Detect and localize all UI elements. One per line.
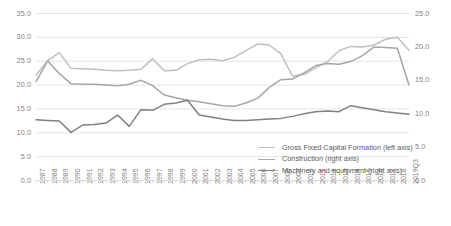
x-axis-tick-1990: 1990 xyxy=(74,168,81,184)
x-axis-tick-1997: 1997 xyxy=(156,168,163,184)
x-axis-tick-1989: 1989 xyxy=(62,168,69,184)
x-axis-tick-2001: 2001 xyxy=(202,168,209,184)
x-axis-tick-2002: 2002 xyxy=(214,168,221,184)
x-axis-tick-1994: 1994 xyxy=(121,168,128,184)
x-axis-tick-1995: 1995 xyxy=(132,168,139,184)
legend-item-label: Gross Fixed Capital Formation (left axis… xyxy=(282,143,413,153)
x-axis-tick-1999: 1999 xyxy=(179,168,186,184)
left-axis-tick-20.0: 20.0 xyxy=(17,80,31,89)
right-axis-tick-10.0: 10.0 xyxy=(415,109,429,118)
x-axis-tick-1987: 1987 xyxy=(39,168,46,184)
left-axis-tick-10.0: 10.0 xyxy=(17,128,31,137)
legend-item-1[interactable]: Gross Fixed Capital Formation (left axis… xyxy=(258,143,413,153)
x-axis-tick-2003: 2003 xyxy=(226,168,233,184)
left-axis-tick-30.0: 30.0 xyxy=(17,32,31,41)
left-axis-tick-15.0: 15.0 xyxy=(17,104,31,113)
left-axis-tick-5.0: 5.0 xyxy=(21,152,31,161)
x-axis-tick-1988: 1988 xyxy=(51,168,58,184)
x-axis-tick-1993: 1993 xyxy=(109,168,116,184)
chart-container: 0.05.010.015.020.025.030.035.0 0.05.010.… xyxy=(0,0,451,226)
x-axis-tick-2005: 2005 xyxy=(249,168,256,184)
legend-swatch-icon xyxy=(258,147,275,148)
x-axis-tick-2004: 2004 xyxy=(237,168,244,184)
legend-item-3[interactable]: Machinery and equipment (right axis) xyxy=(258,166,402,176)
x-axis-tick-2019Q3: 2019Q3 xyxy=(412,159,419,184)
legend-swatch-icon xyxy=(258,170,275,171)
left-axis-tick-25.0: 25.0 xyxy=(17,56,31,65)
left-axis-tick-35.0: 35.0 xyxy=(17,9,31,18)
x-axis-tick-1992: 1992 xyxy=(97,168,104,184)
legend-item-2[interactable]: Construction (right axis) xyxy=(258,154,359,164)
legend-swatch-icon xyxy=(258,159,275,160)
x-axis-tick-1998: 1998 xyxy=(167,168,174,184)
x-axis-tick-1996: 1996 xyxy=(144,168,151,184)
right-axis-tick-15.0: 15.0 xyxy=(415,75,429,84)
right-axis-tick-5.0: 5.0 xyxy=(415,142,425,151)
chart-plot-area xyxy=(0,0,451,226)
x-axis-tick-2000: 2000 xyxy=(191,168,198,184)
right-axis-tick-20.0: 20.0 xyxy=(415,42,429,51)
legend-item-label: Machinery and equipment (right axis) xyxy=(282,166,402,176)
right-axis-tick-25.0: 25.0 xyxy=(415,9,429,18)
left-axis-tick-0.0: 0.0 xyxy=(21,176,31,185)
x-axis-tick-1991: 1991 xyxy=(86,168,93,184)
series-line-2 xyxy=(36,47,409,106)
series-line-1 xyxy=(36,37,409,76)
legend-item-label: Construction (right axis) xyxy=(282,154,359,164)
